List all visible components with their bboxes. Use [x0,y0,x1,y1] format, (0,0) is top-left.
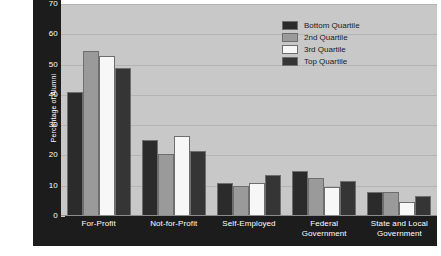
bar [367,192,383,216]
bar [265,175,281,216]
bar-group [211,4,286,216]
bar [399,202,415,216]
x-tick-label: For-Profit [61,219,136,229]
y-tick-label: 60 [33,30,61,38]
bar [83,51,99,216]
x-tick-label: FederalGovernment [287,219,362,239]
bar-group [136,4,211,216]
bar-chart-figure: Percentage of Alumni 010203040506070 For… [0,0,441,246]
bar [115,68,131,216]
x-tick-label-line: Not-for-Profit [136,219,211,229]
y-tick-label: 40 [33,91,61,99]
bar [142,140,158,216]
y-tick-label: 50 [33,61,61,69]
y-tick-label: 20 [33,151,61,159]
legend-swatch-2nd-quartile [282,33,298,42]
legend-item: Bottom Quartile [282,20,398,31]
x-tick-label: Not-for-Profit [136,219,211,229]
x-tick-label-line: Government [287,229,362,239]
y-tick-label: 10 [33,182,61,190]
bar [324,187,340,216]
legend-label: Bottom Quartile [304,21,360,30]
x-tick-label-line: For-Profit [61,219,136,229]
y-tick-label: 30 [33,121,61,129]
x-tick-label: Self-Employed [211,219,286,229]
bar [233,186,249,216]
bar [174,136,190,216]
bar [217,183,233,216]
x-tick-label-line: Government [362,229,437,239]
bar [340,181,356,216]
x-tick-label-line: State and Local [362,219,437,229]
legend-swatch-3rd-quartile [282,45,298,54]
bar [67,92,83,216]
y-tick-label: 70 [33,0,61,8]
bar-group [61,4,136,216]
y-tick-label: 0 [33,212,61,220]
bar [308,178,324,216]
x-tick-label-line: Self-Employed [211,219,286,229]
legend-swatch-bottom-quartile [282,21,298,30]
axis-baseline [61,215,437,216]
legend-item: 2nd Quartile [282,32,398,43]
legend-label: 2nd Quartile [304,33,348,42]
bar [383,192,399,216]
x-tick-label: State and LocalGovernment [362,219,437,239]
bar [190,151,206,216]
bar [249,183,265,216]
bar [99,56,115,217]
bar [292,171,308,216]
bar [415,196,431,216]
x-tick-label-line: Federal [287,219,362,229]
legend-label: Top Quartile [304,57,347,66]
chart-legend: Bottom Quartile 2nd Quartile 3rd Quartil… [282,20,398,68]
legend-swatch-top-quartile [282,57,298,66]
legend-item: Top Quartile [282,56,398,67]
legend-item: 3rd Quartile [282,44,398,55]
legend-label: 3rd Quartile [304,45,346,54]
y-tick-mark [61,216,65,217]
bar [158,154,174,216]
